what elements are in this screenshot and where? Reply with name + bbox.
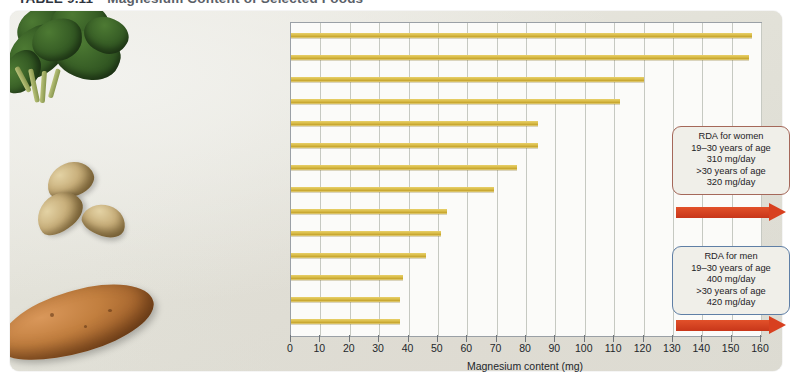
bar — [291, 319, 400, 324]
category-labels: Spinach, boiled, drained, 1 cup Pumpkin … — [0, 22, 286, 335]
bar — [291, 187, 494, 192]
x-tick-label: 90 — [549, 342, 561, 354]
bar — [291, 121, 538, 126]
bar — [291, 209, 447, 214]
bar — [291, 231, 441, 236]
x-tick-label: 140 — [692, 342, 710, 354]
table-number: TABLE 9.11 — [18, 0, 93, 6]
rda-men-line-3: >30 years of age — [675, 286, 787, 298]
x-tick — [290, 335, 291, 342]
x-tick — [643, 335, 644, 342]
table-title-bar: TABLE 9.11Magnesium Content of Selected … — [0, 0, 789, 11]
rda-men-line-4: 420 mg/day — [675, 297, 787, 309]
bar — [291, 297, 400, 302]
x-tick — [613, 335, 614, 342]
x-axis-title: Magnesium content (mg) — [290, 360, 760, 372]
x-axis-tick-labels: 0102030405060708090100110120130140150160 — [290, 342, 760, 358]
x-tick-label: 120 — [634, 342, 652, 354]
x-tick-label: 60 — [460, 342, 472, 354]
bar — [291, 253, 426, 258]
rda-men-arrow-icon — [676, 316, 786, 334]
x-tick — [584, 335, 585, 342]
x-tick-label: 0 — [287, 342, 293, 354]
x-tick — [437, 335, 438, 342]
rda-women-arrow-icon — [676, 203, 786, 221]
rda-women-callout: RDA for women 19–30 years of age 310 mg/… — [672, 126, 790, 195]
x-tick-label: 40 — [402, 342, 414, 354]
x-tick — [525, 335, 526, 342]
x-tick — [466, 335, 467, 342]
rda-men-callout: RDA for men 19–30 years of age 400 mg/da… — [672, 246, 790, 315]
x-tick — [760, 335, 761, 342]
x-tick — [496, 335, 497, 342]
x-tick-label: 20 — [343, 342, 355, 354]
x-tick-label: 30 — [372, 342, 384, 354]
bar — [291, 77, 644, 82]
x-tick-label: 150 — [722, 342, 740, 354]
bar — [291, 55, 749, 60]
x-tick — [408, 335, 409, 342]
x-tick-label: 50 — [431, 342, 443, 354]
table-caption: Magnesium Content of Selected Foods — [107, 0, 363, 6]
x-tick-label: 110 — [605, 342, 622, 354]
rda-men-line-0: RDA for men — [675, 251, 787, 263]
bar — [291, 99, 620, 104]
x-tick-label: 70 — [490, 342, 502, 354]
rda-women-line-1: 19–30 years of age — [675, 143, 787, 155]
rda-women-line-4: 320 mg/day — [675, 177, 787, 189]
rda-men-line-1: 19–30 years of age — [675, 263, 787, 275]
x-tick-label: 160 — [751, 342, 769, 354]
rda-men-line-2: 400 mg/day — [675, 274, 787, 286]
rda-women-line-3: >30 years of age — [675, 166, 787, 178]
table-title: TABLE 9.11Magnesium Content of Selected … — [18, 0, 363, 6]
bar — [291, 275, 403, 280]
x-tick — [731, 335, 732, 342]
x-tick-label: 80 — [519, 342, 531, 354]
x-tick — [378, 335, 379, 342]
bar — [291, 143, 538, 148]
rda-women-line-2: 310 mg/day — [675, 154, 787, 166]
x-tick — [701, 335, 702, 342]
bar — [291, 33, 752, 38]
x-tick-label: 10 — [314, 342, 326, 354]
x-tick-label: 130 — [663, 342, 681, 354]
x-tick — [349, 335, 350, 342]
rda-women-line-0: RDA for women — [675, 131, 787, 143]
x-tick — [672, 335, 673, 342]
x-tick-label: 100 — [575, 342, 593, 354]
x-tick — [554, 335, 555, 342]
bar — [291, 165, 517, 170]
x-tick — [319, 335, 320, 342]
